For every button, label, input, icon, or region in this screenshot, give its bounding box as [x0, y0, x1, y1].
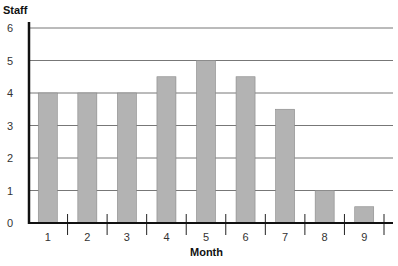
- x-tick-label: 8: [322, 231, 328, 243]
- y-tick-label: 2: [7, 152, 13, 164]
- y-tick-label: 1: [7, 185, 13, 197]
- x-tick-label: 2: [84, 231, 90, 243]
- y-tick-label: 5: [7, 55, 13, 67]
- x-tick-label: 4: [163, 231, 169, 243]
- y-tick-label: 3: [7, 120, 13, 132]
- bar: [355, 207, 374, 223]
- x-tick-label: 5: [203, 231, 209, 243]
- chart-plot: 0123456123456789: [0, 0, 398, 266]
- x-tick-label: 9: [361, 231, 367, 243]
- bar: [276, 109, 295, 223]
- bar: [315, 191, 334, 224]
- x-tick-label: 6: [242, 231, 248, 243]
- x-tick-label: 3: [124, 231, 130, 243]
- bar: [157, 77, 176, 223]
- bar: [236, 77, 255, 223]
- bar: [197, 61, 216, 224]
- y-tick-label: 6: [7, 22, 13, 34]
- x-tick-label: 1: [45, 231, 51, 243]
- y-tick-label: 4: [7, 87, 13, 99]
- x-tick-label: 7: [282, 231, 288, 243]
- bar: [117, 93, 136, 223]
- bar: [78, 93, 97, 223]
- y-tick-label: 0: [7, 217, 13, 229]
- bar: [38, 93, 57, 223]
